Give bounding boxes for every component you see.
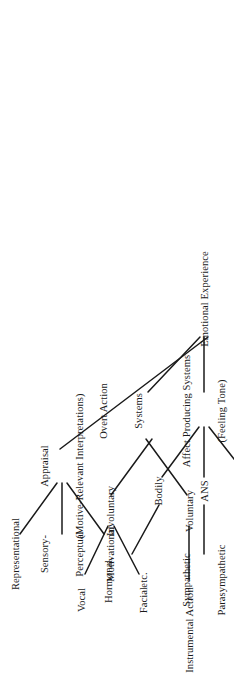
node-ans-label: ANS — [198, 480, 210, 501]
node-affect-producing-systems[interactable]: Affect Producing Systems (Feeling Tone) — [157, 355, 234, 467]
node-sensory-perceptual-line1: Sensory- — [39, 531, 51, 576]
diagram-canvas: Emotional Experience Overt Action System… — [0, 0, 234, 692]
node-instrumental-action-label: Instrumental Action — [183, 587, 195, 673]
node-overt-action-systems-line2: Systems — [133, 383, 145, 439]
node-appraisal-line1: Appraisal — [39, 393, 51, 538]
node-affect-producing-systems-line1: Affect Producing Systems — [181, 355, 193, 467]
node-facial-label: Facial — [137, 587, 149, 613]
diagram-stage: Emotional Experience Overt Action System… — [0, 0, 234, 692]
node-emotional-experience-line1: Emotional Experience — [198, 251, 210, 347]
node-facial[interactable]: Facial — [114, 587, 173, 613]
node-vocal-label: Vocal — [75, 588, 87, 612]
node-bodily-label: Bodily — [152, 476, 164, 505]
node-affect-producing-systems-line2: (Feeling Tone) — [216, 355, 228, 467]
node-emotional-experience[interactable]: Emotional Experience — [175, 251, 234, 347]
node-bodily[interactable]: Bodily — [129, 476, 188, 505]
node-vocal[interactable]: Vocal — [52, 588, 111, 612]
